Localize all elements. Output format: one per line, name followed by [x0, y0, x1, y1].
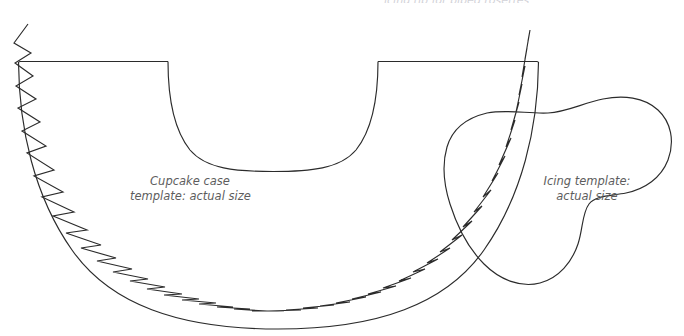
cupcake-case-right-corner-join [537, 62, 538, 63]
cupcake-case-left-corner-join [19, 62, 20, 63]
template-sheet-page: Cupcake casetemplate: actual size Icing … [0, 0, 684, 336]
paper-background [0, 0, 684, 336]
template-artboard [0, 0, 684, 336]
